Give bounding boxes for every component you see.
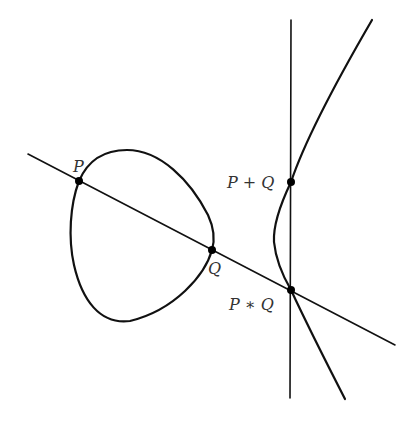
point-p-plus-q xyxy=(287,178,295,186)
elliptic-curve-diagram: P Q P ∗ Q P + Q xyxy=(0,0,419,421)
label-p-plus-q: P + Q xyxy=(226,173,274,192)
label-p: P xyxy=(72,157,84,176)
point-q xyxy=(208,246,216,254)
vertical-line xyxy=(290,20,291,398)
curve-branch xyxy=(274,20,372,399)
point-p xyxy=(75,177,83,185)
curve-oval xyxy=(71,150,214,321)
label-p-star-q: P ∗ Q xyxy=(228,295,274,314)
point-p-star-q xyxy=(287,286,295,294)
label-q: Q xyxy=(208,259,221,278)
